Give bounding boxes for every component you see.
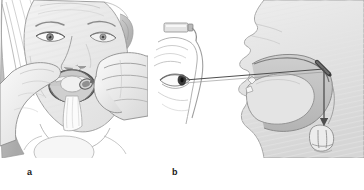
gauze-square (63, 96, 82, 131)
panel-label-b: b (172, 168, 178, 177)
panel-label-a: a (27, 168, 32, 177)
examiner-eye (160, 74, 190, 88)
panel-a-illustration (0, 0, 148, 158)
figure-container: a b (0, 0, 364, 190)
panel-b-diagram (152, 0, 364, 158)
larynx-vocal-cords (309, 125, 333, 152)
patient-head-sagittal-section (239, 0, 364, 158)
